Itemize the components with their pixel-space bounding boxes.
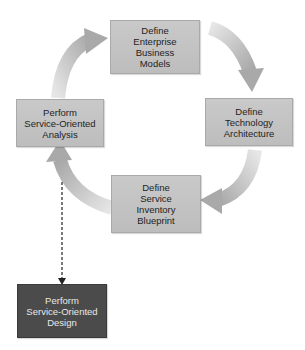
node-perform-service-oriented-analysis: Perform Service-Oriented Analysis: [16, 99, 104, 147]
node-label: Define Technology Architecture: [224, 106, 275, 139]
node-label: Define Enterprise Business Models: [133, 25, 176, 69]
arrow-technology-to-inventory: [200, 150, 255, 214]
node-perform-service-oriented-design: Perform Service-Oriented Design: [17, 284, 107, 338]
node-label: Define Service Inventory Blueprint: [136, 182, 175, 226]
node-define-technology-architecture: Define Technology Architecture: [205, 98, 293, 146]
node-define-enterprise-business-models: Define Enterprise Business Models: [110, 20, 200, 74]
arrow-enterprise-to-technology: [210, 28, 264, 92]
arrow-analysis-to-enterprise: [58, 28, 108, 98]
node-label: Perform Service-Oriented Design: [26, 295, 97, 328]
arrow-inventory-to-analysis: [46, 140, 112, 208]
node-label: Perform Service-Oriented Analysis: [24, 107, 95, 140]
arrow-analysis-to-design: [58, 182, 66, 285]
node-define-service-inventory-blueprint: Define Service Inventory Blueprint: [111, 175, 201, 233]
